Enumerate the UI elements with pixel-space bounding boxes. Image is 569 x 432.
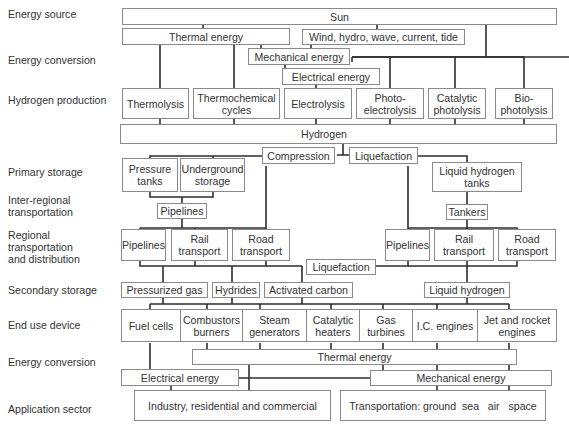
- node-pipelines-regional-right: Pipelines: [385, 229, 430, 261]
- node-label: Thermolysis: [127, 98, 184, 110]
- node-electrical-energy: Electrical energy: [282, 68, 380, 85]
- node-steam-generators: Steam generators: [242, 309, 307, 342]
- row-label-regional-transportation: Regional transportation and distribution: [8, 229, 80, 265]
- node-photo-electrolysis: Photo- electrolysis: [356, 88, 424, 119]
- node-label: Photo- electrolysis: [364, 92, 416, 116]
- node-label: Steam generators: [249, 314, 300, 338]
- node-thermochemical-cycles: Thermochemical cycles: [193, 88, 280, 119]
- node-label: Thermal energy: [317, 351, 391, 363]
- node-label: Jet and rocket engines: [484, 314, 551, 338]
- node-liquid-hydrogen-tanks: Liquid hydrogen tanks: [432, 162, 522, 192]
- node-label: Road transport: [506, 233, 548, 257]
- node-hydrides: Hydrides: [212, 282, 260, 298]
- node-label: Pipelines: [386, 239, 429, 251]
- node-label: Sun: [330, 11, 349, 23]
- node-tankers: Tankers: [446, 204, 488, 220]
- node-catalytic-photolysis: Catalytic photolysis: [428, 88, 486, 119]
- node-label: Hydrides: [215, 284, 257, 296]
- node-label: Pipelines: [161, 205, 204, 217]
- node-compression: Compression: [262, 147, 335, 164]
- node-thermal-energy: Thermal energy: [122, 28, 290, 45]
- node-transportation: Transportation: ground sea air space: [340, 390, 546, 421]
- node-label: Liquefaction: [355, 150, 412, 162]
- node-bio-photolysis: Bio- photolysis: [495, 88, 553, 119]
- node-liquefaction: Liquefaction: [349, 147, 418, 164]
- node-label: Activated carbon: [269, 284, 348, 296]
- node-label: Bio- photolysis: [500, 92, 547, 116]
- node-label: Gas turbines: [367, 314, 405, 338]
- node-label: Liquid hydrogen tanks: [439, 165, 514, 189]
- row-label-end-use-device: End use device: [8, 319, 80, 331]
- node-industry-residential-commercial: Industry, residential and commercial: [134, 390, 331, 421]
- node-liquefaction-regional: Liquefaction: [306, 259, 376, 275]
- hydrogen-energy-system-diagram: Energy source Energy conversion Hydrogen…: [0, 0, 569, 432]
- node-label: Fuel cells: [129, 320, 174, 332]
- node-label: Liquid hydrogen: [429, 284, 504, 296]
- node-pressurized-gas: Pressurized gas: [121, 282, 208, 298]
- node-label: Pressurized gas: [127, 284, 203, 296]
- row-label-energy-conversion-2: Energy conversion: [8, 356, 96, 368]
- node-jet-and-rocket-engines: Jet and rocket engines: [477, 309, 557, 342]
- node-pressure-tanks: Pressure tanks: [122, 158, 178, 192]
- node-label: Electrolysis: [291, 98, 345, 110]
- node-label: Thermochemical cycles: [197, 92, 275, 116]
- node-electrical-energy-bottom: Electrical energy: [121, 369, 239, 386]
- node-label: Rail transport: [443, 233, 485, 257]
- node-liquid-hydrogen: Liquid hydrogen: [424, 282, 510, 298]
- node-hydrogen: Hydrogen: [120, 124, 557, 144]
- node-label: Electrical energy: [141, 372, 219, 384]
- node-label: Wind, hydro, wave, current, tide: [309, 31, 458, 43]
- node-label: Pressure tanks: [129, 163, 171, 187]
- node-ic-engines: I.C. engines: [412, 309, 478, 342]
- row-label-primary-storage: Primary storage: [8, 166, 83, 178]
- node-rail-transport-right: Rail transport: [434, 229, 494, 261]
- node-electrolysis: Electrolysis: [284, 88, 352, 119]
- node-label: Compression: [267, 150, 329, 162]
- node-thermolysis: Thermolysis: [122, 88, 189, 119]
- node-sun: Sun: [122, 8, 557, 25]
- node-pipelines-regional-left: Pipelines: [121, 229, 166, 261]
- row-label-energy-conversion: Energy conversion: [8, 54, 96, 66]
- node-label: Catalytic photolysis: [433, 92, 480, 116]
- node-thermal-energy-bottom: Thermal energy: [192, 349, 517, 365]
- node-label: Pipelines: [122, 239, 165, 251]
- node-underground-storage: Underground storage: [180, 158, 245, 192]
- node-gas-turbines: Gas turbines: [359, 309, 413, 342]
- node-label: Hydrogen: [301, 128, 347, 140]
- node-label: Combustors burners: [183, 314, 240, 338]
- node-label: I.C. engines: [417, 320, 474, 332]
- node-label: Tankers: [448, 206, 485, 218]
- node-label: Rail transport: [179, 233, 221, 257]
- node-catalytic-heaters: Catalytic heaters: [306, 309, 360, 342]
- row-label-inter-regional-transportation: Inter-regional transportation: [8, 194, 73, 218]
- row-label-energy-source: Energy source: [8, 8, 76, 20]
- node-wind-hydro-wave-current-tide: Wind, hydro, wave, current, tide: [302, 29, 465, 45]
- row-label-application-sector: Application sector: [8, 403, 92, 415]
- node-pipelines-inter-regional: Pipelines: [157, 203, 207, 219]
- node-road-transport-left: Road transport: [232, 229, 290, 261]
- row-label-secondary-storage: Secondary storage: [8, 284, 97, 296]
- node-label: Transportation: ground sea air space: [349, 400, 536, 412]
- node-rail-transport-left: Rail transport: [171, 229, 228, 261]
- node-label: Liquefaction: [312, 261, 369, 273]
- node-label: Catalytic heaters: [313, 314, 354, 338]
- node-label: Underground storage: [182, 163, 244, 187]
- node-mechanical-energy: Mechanical energy: [248, 48, 350, 65]
- node-label: Electrical energy: [292, 71, 370, 83]
- node-mechanical-energy-bottom: Mechanical energy: [370, 370, 552, 386]
- node-fuel-cells: Fuel cells: [121, 309, 181, 342]
- node-label: Industry, residential and commercial: [148, 400, 317, 412]
- node-road-transport-right: Road transport: [498, 229, 556, 261]
- node-label: Road transport: [240, 233, 282, 257]
- row-label-hydrogen-production: Hydrogen production: [8, 94, 106, 106]
- node-label: Mechanical energy: [417, 372, 506, 384]
- node-combustors-burners: Combustors burners: [180, 309, 243, 342]
- node-label: Mechanical energy: [255, 51, 344, 63]
- node-activated-carbon: Activated carbon: [264, 282, 353, 298]
- node-label: Thermal energy: [169, 31, 243, 43]
